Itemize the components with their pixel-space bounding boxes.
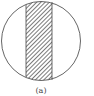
diagram-figure: (a) — [0, 0, 94, 96]
hatched-strip — [26, 0, 52, 82]
figure-label: (a) — [35, 86, 46, 95]
